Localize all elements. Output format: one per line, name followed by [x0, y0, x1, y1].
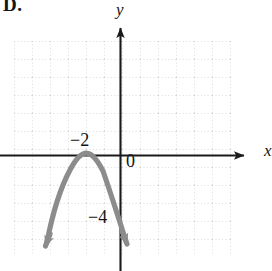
graph-canvas [0, 0, 272, 271]
y-axis-label: y [116, 1, 124, 18]
x-axis-label: x [264, 142, 272, 159]
x-intercept-vertex-label: −2 [70, 131, 89, 149]
origin-label: 0 [126, 152, 135, 170]
y-tick-label-neg4: −4 [88, 208, 107, 226]
figure-panel: D. y x −2 0 −4 [0, 0, 272, 271]
choice-label: D. [3, 0, 22, 14]
